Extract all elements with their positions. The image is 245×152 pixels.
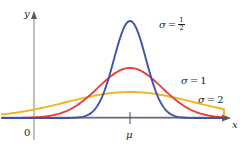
y-axis: [31, 11, 37, 140]
x-axis-label: x: [232, 120, 238, 130]
sigma-symbol: σ: [181, 76, 188, 86]
fraction-one-half: 1 2: [178, 17, 184, 33]
sigma-symbol: σ: [198, 95, 205, 105]
fraction-numerator: 1: [178, 17, 184, 24]
fraction-denominator: 2: [178, 24, 184, 32]
curve-label-sigma-one: σ = 1: [181, 76, 207, 86]
normal-distribution-figure: y x 0 μ σ = 1 2 σ = 1 σ = 2: [0, 0, 245, 152]
sigma-symbol: σ: [159, 20, 166, 30]
mean-tick-label: μ: [126, 130, 133, 140]
curve-label-sigma-half: σ = 1 2: [159, 17, 185, 33]
sigma-value: 2: [217, 95, 223, 105]
curve-sigma-half: [2, 21, 224, 118]
equals-sign: =: [188, 76, 200, 86]
plot-canvas: [0, 0, 245, 152]
curve-sigma-2: [2, 92, 224, 114]
curve-label-sigma-two: σ = 2: [198, 95, 224, 105]
equals-sign: =: [205, 95, 217, 105]
origin-label: 0: [24, 128, 30, 138]
equals-sign: =: [166, 20, 178, 30]
sigma-value: 1: [200, 76, 206, 86]
y-axis-label: y: [24, 9, 30, 19]
